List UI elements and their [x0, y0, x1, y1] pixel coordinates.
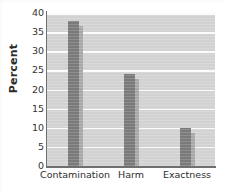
bar-body	[68, 21, 79, 166]
y-axis-tick-label: 25	[24, 66, 44, 76]
plot-area	[47, 13, 215, 166]
y-axis-tick-label: 10	[24, 123, 44, 133]
gridline	[47, 13, 215, 15]
x-axis-tick-label: Harm	[118, 169, 144, 180]
y-axis-line	[46, 11, 47, 168]
bar-shadow	[79, 26, 83, 166]
y-axis-tick-label: 30	[24, 47, 44, 57]
y-axis-tick-label: 15	[24, 104, 44, 114]
bar	[180, 128, 195, 166]
y-axis-tick-label: 35	[24, 27, 44, 37]
y-axis-tick-label: 20	[24, 85, 44, 95]
bar	[124, 74, 139, 166]
bar	[68, 21, 83, 166]
bar-body	[180, 128, 191, 166]
x-axis-tick-label: Exactness	[163, 169, 211, 180]
x-axis-line	[46, 166, 216, 168]
y-axis-tick-label: 40	[24, 8, 44, 18]
y-axis-tick-label-group: 0510152025303540	[24, 13, 44, 166]
x-axis-tick-label: Contamination	[40, 169, 110, 180]
bar-shadow	[191, 133, 195, 166]
y-axis-title: Percent	[7, 34, 20, 104]
bar-body	[124, 74, 135, 166]
y-axis-tick-label: 5	[24, 142, 44, 152]
bar-shadow	[135, 79, 139, 166]
x-axis-tick-label-group: ContaminationHarmExactness	[47, 169, 215, 185]
bar-chart-figure: Percent 0510152025303540 ContaminationHa…	[0, 0, 225, 193]
